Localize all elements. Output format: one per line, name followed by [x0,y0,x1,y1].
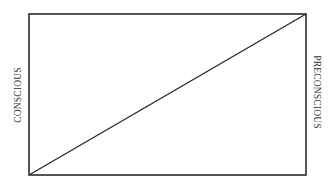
conscious-preconscious-diagram [0,0,335,188]
preconscious-label: PRECONSCIOUS [311,55,321,129]
diagonal-divider-line [29,14,306,175]
conscious-label: CONSCIOUS [14,67,24,123]
